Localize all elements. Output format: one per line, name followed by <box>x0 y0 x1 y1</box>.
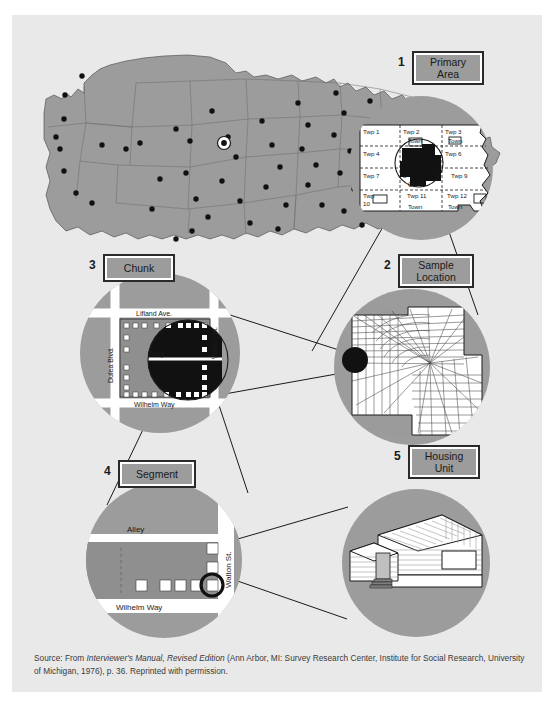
figure-stage: Twp 1 Twp 2 Twp 3 Twp 4 Twp 5 Twp 6 Twp … <box>12 15 542 692</box>
sample-location-circle <box>334 289 490 445</box>
figure-page: Twp 1 Twp 2 Twp 3 Twp 4 Twp 5 Twp 6 Twp … <box>12 15 542 692</box>
chunk-circle: Lifland Ave. Alley Wilhelm Way Dulea Blv… <box>80 273 240 435</box>
svg-text:Twp 1: Twp 1 <box>363 128 380 135</box>
street-label-wilhelm-seg: Wilhelm Way <box>116 603 162 612</box>
source-caption: Source: From Interviewer's Manual, Revis… <box>34 652 526 678</box>
svg-text:Twp 7: Twp 7 <box>363 172 380 179</box>
stage-label-line1: Chunk <box>124 262 154 275</box>
chunk-dot <box>342 347 368 373</box>
housing-unit-circle <box>342 489 490 637</box>
stage-label-chunk: Chunk <box>103 254 175 282</box>
street-label-walton-seg: Walton St. <box>224 551 233 588</box>
svg-text:Twp 2: Twp 2 <box>403 128 420 135</box>
stage-number-2: 2 <box>384 258 391 272</box>
stage-label-segment: Segment <box>118 460 196 488</box>
svg-text:Twp 4: Twp 4 <box>363 150 380 157</box>
stage-label-housing-unit: Housing Unit <box>408 445 480 479</box>
stage-label-line1: Sample <box>418 259 454 272</box>
street-label-wilhelm: Wilhelm Way <box>134 401 175 409</box>
stage-number-4: 4 <box>104 464 111 478</box>
svg-text:Twp 6: Twp 6 <box>445 150 462 157</box>
svg-text:Town: Town <box>448 203 463 210</box>
stage-label-line2: Area <box>437 68 459 81</box>
svg-text:Twp 12: Twp 12 <box>447 192 468 199</box>
svg-text:Twp 3: Twp 3 <box>445 128 462 135</box>
stage-number-3: 3 <box>89 258 96 272</box>
svg-text:Twp 11: Twp 11 <box>407 192 427 199</box>
highlighted-sample-point <box>218 137 231 150</box>
street-label-lifland: Lifland Ave. <box>136 310 172 317</box>
diagram-svg: Twp 1 Twp 2 Twp 3 Twp 4 Twp 5 Twp 6 Twp … <box>12 15 542 692</box>
stage-label-sample-location: Sample Location <box>398 254 474 288</box>
stage-number-5: 5 <box>394 449 401 463</box>
svg-text:Town: Town <box>448 137 463 144</box>
stage-label-line1: Segment <box>136 468 178 481</box>
svg-text:10: 10 <box>363 200 370 207</box>
stage-label-line2: Unit <box>435 462 454 475</box>
primary-area-circle: Twp 1 Twp 2 Twp 3 Twp 4 Twp 5 Twp 6 Twp … <box>349 96 493 240</box>
street-label-alley: Alley <box>149 350 165 358</box>
segment-circle: Alley Wilhelm Way Walton St. <box>86 482 242 638</box>
street-label-alley-seg: Alley <box>127 525 144 534</box>
caption-prefix: Source: From <box>34 653 87 663</box>
caption-italic-title: Interviewer's Manual, Revised Edition <box>87 653 225 663</box>
svg-text:Town: Town <box>408 203 423 210</box>
stage-label-line2: Location <box>416 271 456 284</box>
stage-label-line1: Primary <box>430 56 466 69</box>
svg-text:Twp 9: Twp 9 <box>451 172 468 179</box>
street-label-dulea: Dulea Blvd. <box>107 347 114 383</box>
stage-number-1: 1 <box>398 55 405 69</box>
street-label-walton: Walton St. <box>211 327 218 359</box>
stage-label-line1: Housing <box>425 450 464 463</box>
svg-text:Twp: Twp <box>363 192 375 199</box>
stage-label-primary-area: Primary Area <box>412 51 484 85</box>
